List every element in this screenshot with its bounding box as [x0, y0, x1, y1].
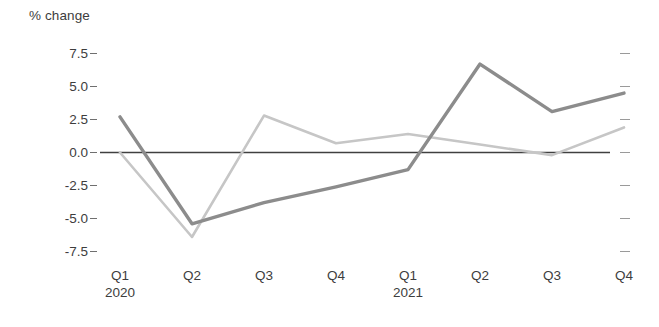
x-axis-tick-label: Q1 2020: [105, 268, 135, 302]
x-axis-quarter-label: Q3: [255, 268, 273, 283]
x-axis-quarter-label: Q2: [471, 268, 489, 283]
x-axis-tick-label: Q2: [183, 268, 201, 285]
x-axis-tick-label: Q1 2021: [393, 268, 423, 302]
x-axis-quarter-label: Q4: [615, 268, 633, 283]
x-axis-tick-label: Q3: [543, 268, 561, 285]
chart-container: % change 7.5 5.0 2.5 0.0 -2.5 -5.0 -7.5 …: [0, 0, 659, 327]
x-axis-tick-label: Q3: [255, 268, 273, 285]
x-axis-tick-labels: Q1 2020 Q2 Q3 Q4 Q1 2021 Q2 Q3 Q4: [0, 0, 659, 327]
x-axis-tick-label: Q4: [327, 268, 345, 285]
x-axis-quarter-label: Q3: [543, 268, 561, 283]
x-axis-tick-label: Q4: [615, 268, 633, 285]
x-axis-quarter-label: Q1: [399, 268, 417, 283]
x-axis-year-label: 2021: [393, 285, 423, 302]
x-axis-quarter-label: Q1: [111, 268, 129, 283]
x-axis-tick-label: Q2: [471, 268, 489, 285]
x-axis-year-label: 2020: [105, 285, 135, 302]
x-axis-quarter-label: Q2: [183, 268, 201, 283]
x-axis-quarter-label: Q4: [327, 268, 345, 283]
